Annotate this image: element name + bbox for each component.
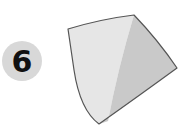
curved-piece-figure [0,0,196,136]
